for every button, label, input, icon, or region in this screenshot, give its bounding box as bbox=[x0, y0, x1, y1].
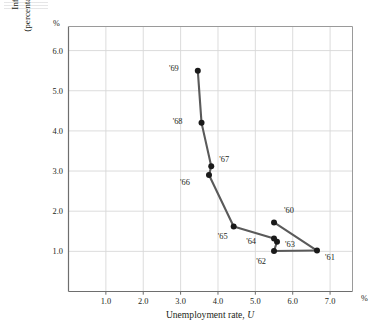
data-point-marker bbox=[271, 219, 277, 225]
y-tick-label: 2.0 bbox=[53, 207, 63, 216]
y-axis-title: Inflation rate (percentage change in P) bbox=[9, 0, 39, 72]
y-tick-label: 6.0 bbox=[53, 47, 63, 56]
x-tick-label: 2.0 bbox=[138, 297, 148, 306]
y-tick-label: 3.0 bbox=[53, 167, 63, 176]
data-point-marker bbox=[208, 163, 214, 169]
chart-plot-area: 1.02.03.04.05.06.07.01.02.03.04.05.06.0 … bbox=[0, 0, 379, 332]
phillips-curve-figure: 1.02.03.04.05.06.07.01.02.03.04.05.06.0 … bbox=[0, 0, 379, 332]
data-point-marker bbox=[271, 236, 277, 242]
data-point-label: '60 bbox=[284, 206, 294, 215]
data-line-segment bbox=[202, 123, 212, 166]
data-point-label: '68 bbox=[173, 117, 183, 126]
y-axis-unit-symbol: % bbox=[53, 19, 60, 28]
x-axis-title: Unemployment rate, U bbox=[68, 309, 352, 320]
x-tick-label: 7.0 bbox=[325, 297, 335, 306]
y-axis-title-line2: (percentage change in P) bbox=[21, 0, 33, 72]
x-tick-label: 3.0 bbox=[175, 297, 185, 306]
data-point-label: '66 bbox=[180, 178, 190, 187]
data-point-label: '69 bbox=[169, 64, 179, 73]
data-line-segment bbox=[274, 222, 317, 250]
y-tick-label: 4.0 bbox=[53, 127, 63, 136]
x-axis-unit-symbol: % bbox=[361, 294, 368, 303]
data-point-marker bbox=[231, 223, 237, 229]
data-line bbox=[198, 71, 317, 251]
data-point-marker bbox=[271, 248, 277, 254]
x-tick-label: 6.0 bbox=[287, 297, 297, 306]
y-axis-title-line1: Inflation rate bbox=[9, 0, 21, 72]
data-point-label: '64 bbox=[246, 237, 257, 246]
data-point-label: '62 bbox=[256, 257, 266, 266]
y-tick-label: 1.0 bbox=[53, 247, 63, 256]
x-tick-label: 4.0 bbox=[213, 297, 223, 306]
y-tick-label: 5.0 bbox=[53, 87, 63, 96]
data-line-segment bbox=[209, 175, 234, 226]
data-point-label: '61 bbox=[325, 253, 335, 262]
data-point-label: '67 bbox=[219, 155, 229, 164]
x-tick-label: 1.0 bbox=[101, 297, 111, 306]
data-line-segment bbox=[198, 71, 202, 123]
data-point-label: '65 bbox=[218, 232, 228, 241]
data-markers bbox=[195, 68, 320, 254]
data-point-marker bbox=[206, 172, 212, 178]
data-point-marker bbox=[314, 248, 320, 254]
data-point-marker bbox=[195, 68, 201, 74]
data-point-label: '63 bbox=[285, 240, 295, 249]
data-point-marker bbox=[199, 120, 205, 126]
data-point-labels: '60'61'62'63'64'65'66'67'68'69 bbox=[169, 64, 335, 266]
x-tick-label: 5.0 bbox=[250, 297, 260, 306]
